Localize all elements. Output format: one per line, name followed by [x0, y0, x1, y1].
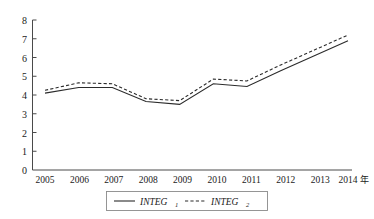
y-tick-label: 8 — [22, 15, 27, 26]
y-tick-label: 5 — [22, 71, 27, 82]
y-tick-label: 6 — [22, 53, 27, 64]
x-tick-label: 2009 — [173, 175, 192, 185]
chart-legend: INTEG 1 INTEG 2 — [107, 192, 268, 211]
y-axis-ticks — [33, 20, 37, 151]
x-axis-unit-label: 年 — [360, 174, 369, 185]
legend-label-integ1: INTEG — [139, 197, 168, 207]
x-tick-label: 2007 — [104, 175, 123, 185]
x-axis-tick-labels: 2005 2006 2007 2008 2009 2010 2011 2012 … — [36, 175, 358, 185]
y-tick-label: 4 — [22, 90, 27, 101]
x-tick-label: 2010 — [208, 175, 227, 185]
y-tick-label: 1 — [22, 146, 27, 157]
x-tick-label: 2012 — [276, 175, 295, 185]
y-axis-tick-labels: 8 7 6 5 4 3 2 1 0 — [22, 15, 27, 176]
x-tick-label: 2013 — [311, 175, 330, 185]
y-tick-label: 2 — [22, 128, 27, 139]
x-tick-label: 2011 — [242, 175, 261, 185]
series-line-integ2 — [45, 35, 348, 101]
y-tick-label: 7 — [22, 34, 27, 45]
line-chart-figure: 8 7 6 5 4 3 2 1 0 2005 2006 2007 2008 20… — [0, 0, 374, 219]
chart-canvas: 8 7 6 5 4 3 2 1 0 2005 2006 2007 2008 20… — [0, 0, 374, 219]
y-tick-label: 0 — [22, 165, 27, 176]
x-tick-label: 2006 — [70, 175, 89, 185]
x-tick-label: 2005 — [36, 175, 55, 185]
x-tick-label: 2014 — [339, 175, 358, 185]
legend-subscript-integ1: 1 — [175, 201, 178, 208]
y-tick-label: 3 — [22, 109, 27, 120]
legend-subscript-integ2: 2 — [246, 201, 250, 208]
series-line-integ1 — [45, 41, 348, 105]
x-tick-label: 2008 — [139, 175, 158, 185]
legend-label-integ2: INTEG — [210, 197, 239, 207]
